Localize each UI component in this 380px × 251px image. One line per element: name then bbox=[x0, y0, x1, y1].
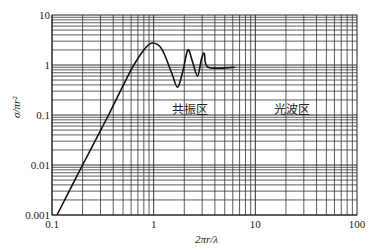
y-tick-label: 10 bbox=[39, 9, 51, 21]
x-tick-label: 1 bbox=[151, 218, 157, 230]
scattering-chart: 0.0010.010.1110 0.1110100 共振区 光波区 2πr/λ … bbox=[0, 0, 380, 251]
y-tick-label: 0.1 bbox=[36, 109, 50, 121]
x-axis-label: 2πr/λ bbox=[195, 233, 218, 245]
y-tick-label: 1 bbox=[45, 59, 51, 71]
y-axis-label: σ/πr² bbox=[10, 96, 22, 118]
y-tick-label: 0.01 bbox=[31, 159, 50, 171]
region-label-resonance: 共振区 bbox=[172, 103, 208, 117]
x-axis-ticks: 0.1110100 bbox=[45, 218, 366, 230]
x-tick-label: 0.1 bbox=[45, 218, 59, 230]
data-curve bbox=[57, 43, 235, 215]
region-label-optical: 光波区 bbox=[274, 103, 310, 117]
x-tick-label: 100 bbox=[349, 218, 366, 230]
y-axis-ticks: 0.0010.010.1110 bbox=[25, 9, 50, 221]
x-tick-label: 10 bbox=[250, 218, 262, 230]
